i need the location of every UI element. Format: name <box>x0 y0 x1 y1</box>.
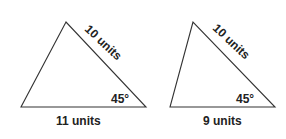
diagram-canvas: 10 units 45° 11 units 10 units 45° 9 uni… <box>0 0 286 139</box>
triangle-2-base-label: 9 units <box>203 114 242 128</box>
triangle-1-side-label: 10 units <box>82 22 125 63</box>
triangle-1-angle-label: 45° <box>111 92 129 106</box>
triangle-1: 10 units 45° 11 units <box>21 22 146 128</box>
triangle-2-side-label: 10 units <box>210 21 253 62</box>
triangle-2: 10 units 45° 9 units <box>170 21 275 128</box>
triangle-1-base-label: 11 units <box>56 114 101 128</box>
triangle-2-angle-label: 45° <box>236 92 254 106</box>
